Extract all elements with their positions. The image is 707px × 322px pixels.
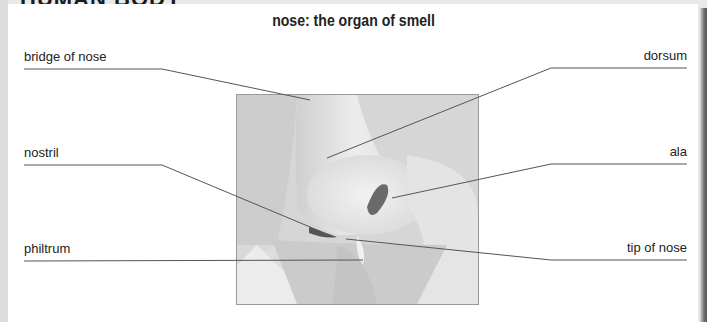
label-ala: ala	[670, 144, 687, 159]
leader-philtrum	[24, 260, 363, 261]
leader-bridge-of-nose	[24, 69, 310, 100]
leader-dorsum	[327, 68, 687, 158]
label-bridge-of-nose: bridge of nose	[24, 49, 106, 64]
label-philtrum: philtrum	[24, 241, 70, 256]
label-tip-of-nose: tip of nose	[627, 240, 687, 255]
leader-ala	[392, 164, 687, 198]
leader-nostril	[24, 165, 322, 232]
label-nostril: nostril	[24, 145, 59, 160]
label-dorsum: dorsum	[644, 48, 687, 63]
